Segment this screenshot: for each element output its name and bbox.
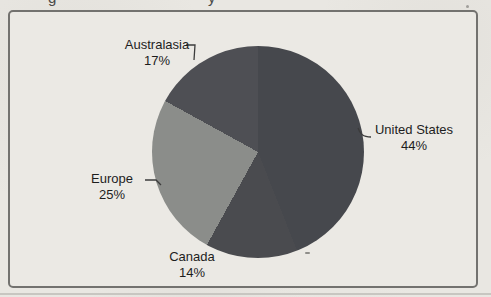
pie-chart [152,46,364,258]
cropped-text-row: g y [0,0,491,6]
pie-label-name: Europe [74,171,150,187]
pie-label-name: Australasia [106,37,208,53]
scan-speck [466,5,469,8]
pie-label-name: Canada [149,249,235,265]
scan-artifact-line [0,293,491,295]
pie-label-percent: 44% [368,138,460,154]
pie-label-united-states: United States 44% [368,122,460,154]
pie-label-australasia: Australasia 17% [106,37,208,69]
pie-label-percent: 17% [106,53,208,69]
cropped-text-fragment: y [208,0,216,6]
pie-label-canada: Canada 14% [149,249,235,281]
pie-label-percent: 25% [74,187,150,203]
scanned-page: g y Australasia 17% United States 44% Eu… [0,0,491,297]
scan-speck [305,252,310,254]
cropped-text-fragment: g [48,0,56,6]
pie-label-percent: 14% [149,265,235,281]
pie-label-europe: Europe 25% [74,171,150,203]
pie-label-name: United States [368,122,460,138]
